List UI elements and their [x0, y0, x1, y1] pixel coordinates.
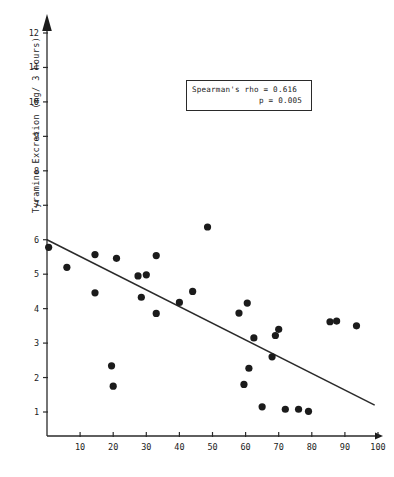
- x-tick-label-100: 100: [364, 442, 392, 452]
- y-tick-label-2: 2: [17, 373, 39, 383]
- x-tick-label-80: 80: [298, 442, 326, 452]
- data-point: [353, 322, 360, 329]
- data-point: [153, 252, 160, 259]
- data-point: [204, 223, 211, 230]
- data-point: [138, 294, 145, 301]
- y-tick-label-7: 7: [17, 200, 39, 210]
- data-point: [45, 244, 52, 251]
- y-tick-label-3: 3: [17, 338, 39, 348]
- y-tick-label-5: 5: [17, 269, 39, 279]
- x-tick-label-60: 60: [232, 442, 260, 452]
- data-point: [333, 317, 340, 324]
- data-point: [91, 251, 98, 258]
- data-point: [259, 403, 266, 410]
- axes: [42, 14, 383, 440]
- data-point: [134, 272, 141, 279]
- y-tick-label-9: 9: [17, 131, 39, 141]
- x-tick-label-90: 90: [331, 442, 359, 452]
- x-tick-label-30: 30: [132, 442, 160, 452]
- trendline: [47, 240, 375, 405]
- data-point: [244, 300, 251, 307]
- data-point: [268, 353, 275, 360]
- trendline-segment: [47, 240, 375, 405]
- x-tick-label-40: 40: [165, 442, 193, 452]
- plot-canvas: [0, 0, 394, 477]
- y-tick-label-8: 8: [17, 166, 39, 176]
- y-tick-label-11: 11: [17, 62, 39, 72]
- data-point: [295, 406, 302, 413]
- data-point: [143, 271, 150, 278]
- y-tick-label-10: 10: [17, 97, 39, 107]
- data-point: [176, 299, 183, 306]
- data-points: [45, 223, 360, 415]
- data-point: [189, 288, 196, 295]
- data-point: [153, 310, 160, 317]
- data-point: [113, 255, 120, 262]
- data-point: [108, 362, 115, 369]
- scatter-plot-figure: Tyramine Excretion (mg/ 3 hours) 1234567…: [0, 0, 394, 477]
- y-tick-label-6: 6: [17, 235, 39, 245]
- y-tick-label-1: 1: [17, 407, 39, 417]
- statistics-annotation-box: Spearman's rho = 0.616 p = 0.005: [186, 80, 312, 111]
- p-value-label: p = 0.005: [192, 95, 306, 106]
- y-tick-label-4: 4: [17, 304, 39, 314]
- data-point: [63, 264, 70, 271]
- data-point: [250, 334, 257, 341]
- data-point: [305, 408, 312, 415]
- data-point: [275, 326, 282, 333]
- data-point: [110, 383, 117, 390]
- x-tick-label-70: 70: [265, 442, 293, 452]
- data-point: [272, 332, 279, 339]
- data-point: [240, 381, 247, 388]
- x-tick-label-20: 20: [99, 442, 127, 452]
- x-tick-label-10: 10: [66, 442, 94, 452]
- x-tick-label-50: 50: [199, 442, 227, 452]
- data-point: [282, 406, 289, 413]
- data-point: [91, 289, 98, 296]
- spearman-rho-label: Spearman's rho = 0.616: [192, 84, 306, 95]
- data-point: [245, 365, 252, 372]
- data-point: [235, 310, 242, 317]
- data-point: [326, 318, 333, 325]
- y-tick-label-12: 12: [17, 28, 39, 38]
